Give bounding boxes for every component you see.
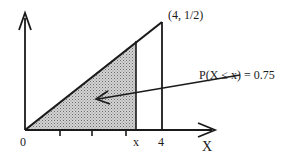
x-marker-label: x [133, 135, 139, 149]
probability-label: P(X ≤ x) = 0.75 [199, 68, 275, 82]
point-label: (4, 1/2) [168, 8, 203, 22]
axis-x-label: X [202, 139, 212, 154]
four-label: 4 [158, 135, 164, 149]
pdf-diagram: (4, 1/2) P(X ≤ x) = 0.75 0 x 4 X [0, 0, 292, 158]
origin-label: 0 [20, 135, 26, 149]
